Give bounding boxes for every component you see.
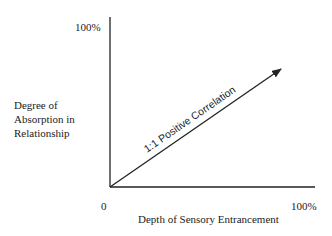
origin-label: 0 xyxy=(101,200,107,213)
x-axis-title: Depth of Sensory Entrancement xyxy=(138,213,279,226)
y-axis-title: Degree of Absorption in Relationship xyxy=(14,98,104,140)
x-axis-max-label: 100% xyxy=(291,200,317,213)
correlation-arrow xyxy=(110,69,281,187)
y-axis-max-label: 100% xyxy=(75,21,101,34)
arrow-label: 1:1 Positive Correlation xyxy=(141,83,237,155)
